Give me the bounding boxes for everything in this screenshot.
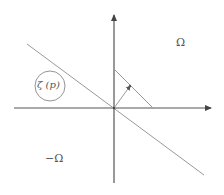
diagram-canvas [0,0,224,195]
normal-vector [114,86,130,108]
omega-label: Ω [176,37,185,48]
vector-tip-dot [129,85,131,87]
neg-omega-label: −Ω [45,153,63,164]
zeta-p-label: ζ (p) [37,80,60,90]
origin-dot [113,107,115,109]
parallel-segment [114,69,153,108]
